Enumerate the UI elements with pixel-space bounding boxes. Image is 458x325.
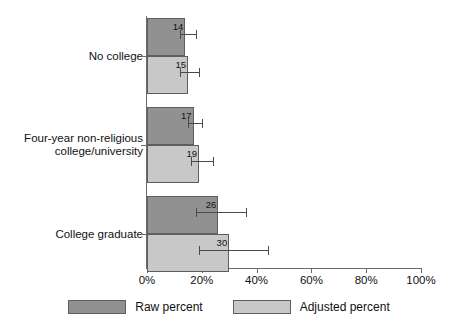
error-bar-cap-high xyxy=(202,119,203,128)
x-tick-60pct xyxy=(311,268,312,273)
bar-value-label-2-raw: 17 xyxy=(177,111,192,121)
error-bar-cap-low xyxy=(191,157,192,166)
legend-swatch-adjusted-percent xyxy=(233,300,291,314)
x-tick-label-100pct: 100% xyxy=(398,274,444,287)
legend-label-adjusted-percent: Adjusted percent xyxy=(300,300,390,314)
category-label-line: College graduate xyxy=(0,228,143,241)
error-bar-cap-high xyxy=(246,208,247,217)
bar-value-label-2-adjusted: 19 xyxy=(182,149,197,159)
error-bar-cap-low xyxy=(199,246,200,255)
error-bar-cap-low xyxy=(196,208,197,217)
legend-item-raw-percent: Raw percent xyxy=(68,300,202,314)
error-bar-cap-low xyxy=(180,68,181,77)
error-bar-line-1-adjusted xyxy=(180,72,199,73)
error-bar-line-3-raw xyxy=(196,212,245,213)
error-bar-line-2-raw xyxy=(188,123,202,124)
error-bar-cap-high xyxy=(268,246,269,255)
x-tick-100pct xyxy=(421,268,422,273)
x-tick-40pct xyxy=(257,268,258,273)
error-bar-cap-high xyxy=(199,68,200,77)
error-bar-cap-low xyxy=(180,30,181,39)
category-label-1: No college xyxy=(0,50,143,63)
category-label-line: No college xyxy=(0,50,143,63)
bar-value-label-1-adjusted: 15 xyxy=(171,60,186,70)
legend-label-raw-percent: Raw percent xyxy=(135,300,202,314)
x-tick-label-0pct: 0% xyxy=(124,274,170,287)
x-tick-label-80pct: 80% xyxy=(343,274,389,287)
error-bar-cap-low xyxy=(188,119,189,128)
category-label-2: Four-year non-religiouscollege/universit… xyxy=(0,132,143,158)
bar-value-label-3-raw: 26 xyxy=(201,200,216,210)
error-bar-line-3-adjusted xyxy=(199,250,268,251)
horizontal-bar-chart: No collegeFour-year non-religiouscollege… xyxy=(0,0,458,325)
x-tick-label-40pct: 40% xyxy=(234,274,280,287)
error-bar-line-1-raw xyxy=(180,34,196,35)
category-label-3: College graduate xyxy=(0,228,143,241)
error-bar-cap-high xyxy=(196,30,197,39)
error-bar-line-2-adjusted xyxy=(191,161,213,162)
legend-item-adjusted-percent: Adjusted percent xyxy=(233,300,390,314)
category-label-line: Four-year non-religious xyxy=(0,132,143,145)
bars-layer: 141517192630 xyxy=(147,16,421,268)
x-tick-label-60pct: 60% xyxy=(288,274,334,287)
x-tick-label-20pct: 20% xyxy=(179,274,225,287)
bar-value-label-3-adjusted: 30 xyxy=(212,238,227,248)
chart-legend: Raw percent Adjusted percent xyxy=(0,296,458,318)
error-bar-cap-high xyxy=(213,157,214,166)
x-tick-80pct xyxy=(366,268,367,273)
category-label-line: college/university xyxy=(0,145,143,158)
bar-value-label-1-raw: 14 xyxy=(168,22,183,32)
legend-swatch-raw-percent xyxy=(68,300,126,314)
